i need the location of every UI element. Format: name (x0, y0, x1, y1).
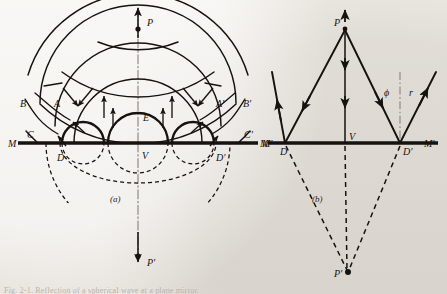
label-p-prime-a: P' (146, 257, 156, 268)
label-m-b: M (259, 138, 269, 149)
virtual-ray-right (349, 146, 400, 270)
point-p-b (343, 27, 348, 32)
label-d-prime-a: D' (215, 152, 226, 163)
label-m-a: M (7, 138, 17, 149)
label-b-a: B (20, 98, 26, 109)
label-v-b: V (349, 131, 357, 142)
virtual-ray-left (286, 146, 347, 270)
label-phi-b: ϕ (384, 87, 389, 98)
label-p-prime-b: P' (333, 268, 343, 279)
source-point-p-a (135, 8, 140, 38)
figure-caption: Fig. 2-1. Reflection of a spherical wave… (4, 286, 434, 294)
label-a-a: A (53, 98, 61, 109)
label-m-prime-b: M' (423, 138, 435, 149)
label-c-prime-a: C' (244, 129, 254, 140)
ray-incident-left (285, 30, 345, 143)
ray-incident-right (345, 30, 400, 143)
label-d-a: D (56, 152, 65, 163)
label-r-b: r (409, 87, 413, 98)
label-p-a: P (146, 17, 153, 28)
image-point-p-prime-a (135, 232, 140, 262)
label-p-b: P (333, 17, 340, 28)
label-e-a: E (142, 112, 149, 123)
label-c-a: C (27, 129, 34, 140)
optics-figure-diagram: P P' M M' V E B A C D A' B' C' D' (a) (0, 0, 447, 294)
virtual-rays-b (286, 146, 400, 270)
virtual-ray-center (345, 146, 347, 270)
ray-arrowheads-b (277, 10, 428, 121)
label-v-a: V (142, 150, 150, 161)
label-b-prime-a: B' (243, 98, 252, 109)
label-a-prime-a: A' (215, 98, 225, 109)
label-d-prime-b: D' (402, 146, 413, 157)
figure-root: P P' M M' V E B A C D A' B' C' D' (a) (0, 0, 447, 294)
ray-reflected-right (400, 72, 436, 143)
point-p-prime-b (345, 269, 351, 275)
panel-b: P P' M M' V D D' ϕ r (b) (259, 10, 438, 279)
panel-a: P P' M M' V E B A C D A' B' C' D' (a) (7, 0, 273, 268)
label-d-b: D (279, 146, 288, 157)
panel-label-a: (a) (110, 194, 121, 204)
panel-label-b: (b) (312, 194, 323, 204)
